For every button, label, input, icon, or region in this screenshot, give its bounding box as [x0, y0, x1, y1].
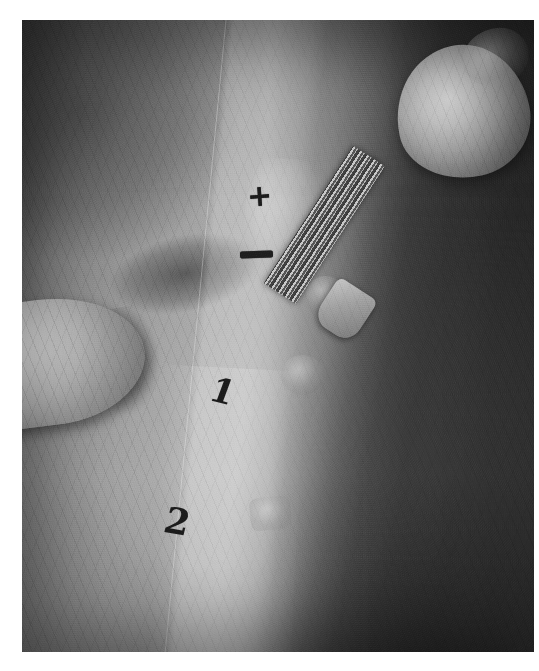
clinical-photograph-figure: + 1 2 Grayscale clinical photograph show… — [0, 0, 539, 671]
photograph-frame: + 1 2 — [22, 20, 534, 652]
photograph-caption: Grayscale clinical photograph showing a … — [0, 0, 1, 1]
photograph-vignette — [22, 20, 534, 652]
